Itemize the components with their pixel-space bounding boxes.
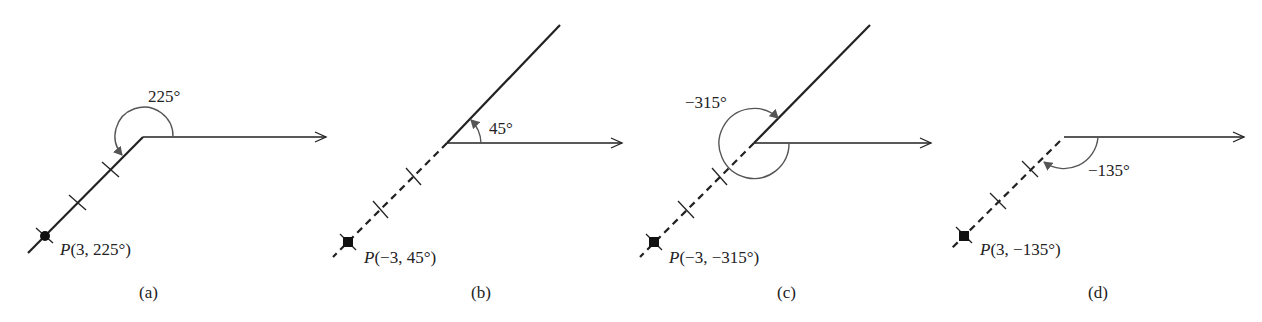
terminal-side	[754, 25, 870, 143]
panel-c: −315° P(−3, −315°) (c)	[640, 25, 931, 302]
point-label: P(3, −135°)	[979, 240, 1061, 259]
panel-d: −135° P(3, −135°) (d)	[950, 137, 1244, 302]
tick-mark	[712, 168, 727, 185]
angle-label: −135°	[1088, 161, 1130, 180]
point-label: P(−3, 45°)	[363, 248, 436, 267]
angle-arc	[115, 107, 173, 155]
point-p	[649, 237, 659, 247]
angle-label: 225°	[148, 87, 180, 106]
panel-b: 45° P(−3, 45°) (b)	[333, 25, 622, 302]
panel-caption: (d)	[1088, 283, 1108, 302]
panel-a: 225° P(3, 225°) (a)	[28, 87, 326, 302]
point-p	[40, 231, 50, 241]
tick-mark	[1022, 161, 1038, 177]
panel-caption: (c)	[777, 283, 796, 302]
point-p	[343, 237, 353, 247]
panel-caption: (a)	[139, 283, 158, 302]
angle-label: −315°	[685, 93, 727, 112]
angle-arc	[471, 120, 481, 143]
point-label: P(−3, −315°)	[668, 248, 759, 267]
panel-caption: (b)	[471, 283, 491, 302]
point-label: P(3, 225°)	[59, 240, 131, 259]
point-p	[959, 231, 969, 241]
tick-mark	[678, 201, 694, 218]
polar-coordinates-figure: 225° P(3, 225°) (a) 45° P(−3, 45°) (b) −…	[0, 0, 1262, 322]
angle-label: 45°	[489, 119, 513, 138]
